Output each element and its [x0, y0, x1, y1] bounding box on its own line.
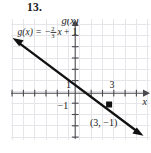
coordinate-graph: g(x) x 1 3 −1 (3, −1) g(x) = − 2 3 x + [11, 19, 150, 141]
svg-text:x: x [57, 27, 63, 37]
svg-text:g(x): g(x) [18, 27, 33, 38]
function-line [13, 38, 144, 136]
figure-container: 13. [0, 0, 151, 153]
svg-text:=: = [36, 27, 41, 37]
grid-lines [11, 19, 150, 140]
x-tick-label-3: 3 [110, 79, 115, 90]
fraction-numerator: 2 [51, 25, 54, 32]
svg-text:+: + [64, 27, 69, 37]
point-label: (3, −1) [90, 117, 117, 129]
y-tick-label-neg1: −1 [58, 100, 69, 111]
svg-text:1: 1 [73, 27, 78, 37]
x-tick-label-1: 1 [66, 79, 71, 90]
y-axis-label: g(x) [62, 19, 79, 27]
plotted-point-marker [106, 102, 112, 108]
x-axis-label: x [142, 96, 148, 107]
svg-text:−: − [45, 27, 50, 37]
problem-number: 13. [27, 1, 42, 13]
graph-svg: g(x) x 1 3 −1 (3, −1) g(x) = − 2 3 x + [11, 19, 150, 141]
